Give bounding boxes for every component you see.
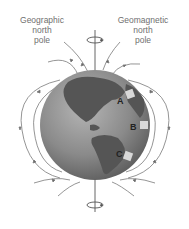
- earth-magnetic-field-diagram: A B C: [0, 0, 189, 229]
- svg-text:B: B: [130, 122, 137, 132]
- svg-text:C: C: [116, 149, 123, 159]
- svg-text:A: A: [117, 96, 124, 106]
